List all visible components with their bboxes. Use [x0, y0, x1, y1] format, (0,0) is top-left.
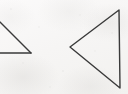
- triangles-drawing: Two hand-drawn triangle outlines: [0, 0, 128, 94]
- left-triangle-group: [0, 22, 31, 53]
- right-triangle-group: [70, 10, 120, 88]
- right-triangle-outline: [70, 10, 120, 88]
- left-triangle-outline: [0, 22, 31, 53]
- figure-canvas: Two hand-drawn triangle outlines: [0, 0, 128, 94]
